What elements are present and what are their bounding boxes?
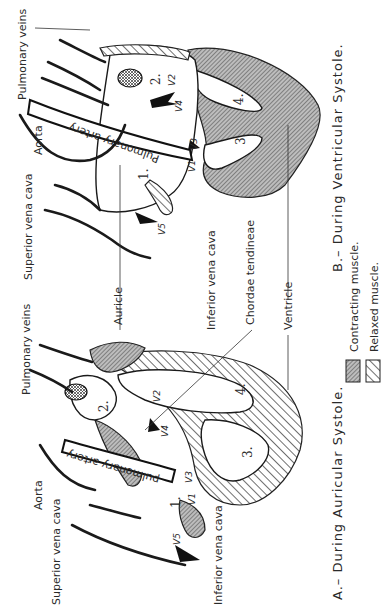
panel-b-ventricle-wall — [188, 48, 320, 197]
panel-b-valve-v1-label: V1 — [187, 160, 197, 172]
panel-b-pulmonary-veins-label: Pulmonary veins — [16, 9, 29, 100]
panel-b-pulmonary-vein-2 — [48, 62, 100, 90]
panel-a-foramen-ovale — [65, 384, 87, 400]
panel-b-valve-v2-label: V2 — [167, 74, 177, 86]
panel-a-chamber-4-label: 4. — [234, 384, 248, 395]
panel-b-chamber-1-label: 1. — [137, 169, 151, 180]
panel-a-valve-v5 — [175, 545, 200, 562]
panel-a-chamber-1-label: 1. — [169, 497, 183, 508]
legend-contracting-label: Contracting muscle. — [348, 241, 361, 352]
panel-a-auricular-systole: pulmonary artery 1. 2. 3. 4. V1 V2 V3 V4… — [20, 220, 345, 605]
panel-b-chamber-3-label: 3. — [234, 134, 248, 145]
panel-a-auricle-label: Auricle — [112, 287, 125, 325]
panel-a-superior-vena-cava-label: Superior vena cava — [50, 498, 63, 605]
panel-a-valve-v5-label: V5 — [172, 533, 182, 545]
panel-b-foramen-ovale — [118, 69, 142, 87]
panel-b-valve-v5-label: V5 — [157, 223, 167, 235]
panel-a-superior-vena-cava — [72, 525, 185, 565]
panel-a-pulmonary-vein-2 — [30, 370, 72, 392]
panel-a-chordae-tendineae-label: Chordae tendineae — [244, 220, 257, 325]
panel-b-chamber-4-label: 4. — [232, 94, 246, 105]
panel-a-chamber-2-label: 2. — [97, 401, 111, 412]
legend: Contracting muscle. Relaxed muscle. — [346, 241, 381, 382]
panel-b-caption: B.– During Ventricular Systole. — [330, 43, 345, 272]
panel-b-valve-v5 — [135, 212, 158, 224]
panel-b-ventricular-systole: Pulmonary artery 1. 2. 3. 4. V1 V2 V3 V4… — [16, 9, 345, 330]
heart-diagram-figure: Pulmonary artery 1. 2. 3. 4. V1 V2 V3 V4… — [0, 0, 392, 616]
panel-b-pulmonary-vein-1 — [60, 40, 105, 62]
panel-a-chamber-3-label: 3. — [241, 447, 255, 458]
panel-a-vena-cava-inner — [90, 505, 140, 518]
panel-a-valve-v3-label: V3 — [184, 471, 194, 483]
panel-a-inferior-vena-cava-label: Inferior vena cava — [212, 505, 225, 605]
panel-a-aorta-label: Aorta — [32, 480, 45, 510]
panel-b-vena-cava-inner — [55, 185, 100, 210]
panel-b-valve-v3-label: V3 — [189, 138, 199, 150]
panel-a-valve-v4-label: V4 — [160, 425, 170, 437]
panel-a-valve-v2-label: V2 — [152, 390, 162, 402]
panel-a-caption: A.– During Auricular Systole. — [330, 386, 345, 600]
panel-b-aorta-label: Aorta — [32, 125, 45, 155]
panel-b-pulmonary-vein-3 — [42, 78, 108, 105]
panel-b-superior-vena-cava-label: Superior vena cava — [22, 173, 35, 280]
legend-swatch-contracting — [346, 360, 360, 382]
panel-a-pulmonary-vein-1 — [40, 345, 92, 362]
legend-relaxed-label: Relaxed muscle. — [368, 262, 381, 352]
panel-a-valve-v1-label: V1 — [187, 493, 197, 505]
legend-swatch-relaxed — [366, 360, 380, 382]
panel-b-valve-v4-label: V4 — [174, 100, 184, 112]
panel-b-superior-vena-cava — [45, 210, 150, 258]
panel-a-ventricle-label: Ventricle — [282, 282, 295, 330]
panel-b-chamber-2-label: 2. — [149, 74, 163, 85]
panel-b-inferior-vena-cava-label: Inferior vena cava — [205, 230, 218, 330]
panel-a-pulmonary-veins-label: Pulmonary veins — [20, 304, 33, 395]
